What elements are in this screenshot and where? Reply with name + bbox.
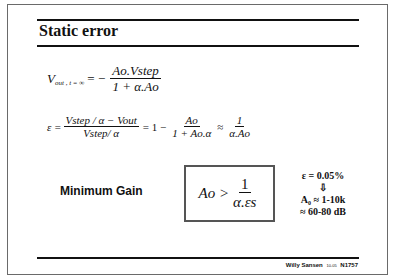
equals-one-minus: = 1 − bbox=[143, 121, 166, 133]
equation-vout: Vout , t = ∞ = − Ao.Vstep 1 + α.Ao bbox=[47, 64, 163, 95]
equals-minus: = − bbox=[87, 71, 105, 87]
min-gain-denominator: α.εs bbox=[231, 193, 258, 211]
vout-symbol: Vout , t = ∞ bbox=[47, 71, 84, 87]
error-fraction-1: Vstep / α − Vout Vstep/ α bbox=[64, 114, 139, 140]
epsilon-value: ε = 0.05% bbox=[288, 170, 358, 182]
error-fraction-3: 1 α.Ao bbox=[227, 114, 252, 140]
frac1-denominator: Vstep/ α bbox=[81, 127, 121, 140]
footer-author: Willy Sansen bbox=[286, 262, 323, 268]
side-notes: ε = 0.05% ⇩ A₀ ≈ 1-10k ≈ 60-80 dB bbox=[288, 170, 358, 218]
title-underline bbox=[37, 45, 359, 47]
vout-fraction: Ao.Vstep 1 + α.Ao bbox=[110, 64, 161, 95]
min-gain-inequality: Ao > 1 α.εs bbox=[199, 176, 261, 212]
footer-code: N1757 bbox=[340, 262, 358, 268]
down-arrow-icon: ⇩ bbox=[288, 182, 358, 194]
frac2-denominator: 1 + Ao.α bbox=[170, 127, 213, 140]
slide-title: Static error bbox=[39, 22, 118, 40]
min-gain-fraction: 1 α.εs bbox=[231, 176, 258, 212]
ao-greater: Ao > bbox=[199, 185, 230, 202]
frac3-denominator: α.Ao bbox=[227, 127, 252, 140]
gain-db-range: ≈ 60-80 dB bbox=[288, 206, 358, 218]
vout-denominator: 1 + α.Ao bbox=[110, 79, 160, 95]
epsilon-lhs: ε = bbox=[47, 121, 62, 133]
footer: Willy Sansen 10-05 N1757 bbox=[286, 262, 358, 268]
frac1-numerator: Vstep / α − Vout bbox=[64, 114, 139, 127]
error-fraction-2: Ao 1 + Ao.α bbox=[170, 114, 213, 140]
boxed-formula: Ao > 1 α.εs bbox=[184, 165, 275, 222]
vout-numerator: Ao.Vstep bbox=[110, 64, 161, 79]
min-gain-numerator: 1 bbox=[239, 176, 251, 194]
approx-sign: ≈ bbox=[217, 121, 223, 133]
minimum-gain-label: Minimum Gain bbox=[60, 184, 143, 198]
footer-date: 10-05 bbox=[326, 263, 336, 268]
gain-range: A₀ ≈ 1-10k bbox=[288, 194, 358, 206]
equation-error: ε = Vstep / α − Vout Vstep/ α = 1 − Ao 1… bbox=[47, 114, 254, 140]
frac3-numerator: 1 bbox=[235, 114, 245, 127]
top-rule bbox=[37, 19, 359, 21]
frac2-numerator: Ao bbox=[184, 114, 200, 127]
bottom-rule bbox=[37, 257, 359, 259]
